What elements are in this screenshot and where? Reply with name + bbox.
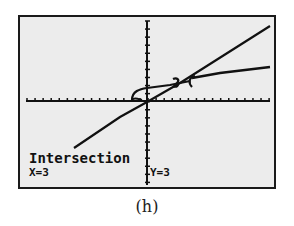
x-readout: X=3: [29, 166, 49, 179]
curve-graph-left-loop: [132, 98, 142, 100]
curve-graph: [132, 81, 190, 100]
line-graph: [74, 26, 270, 148]
intersection-title: Intersection: [29, 150, 130, 166]
calculator-screen: Intersection X=3 Y=3: [18, 15, 276, 189]
y-readout: Y=3: [150, 166, 170, 179]
figure-caption: (h): [0, 197, 294, 216]
